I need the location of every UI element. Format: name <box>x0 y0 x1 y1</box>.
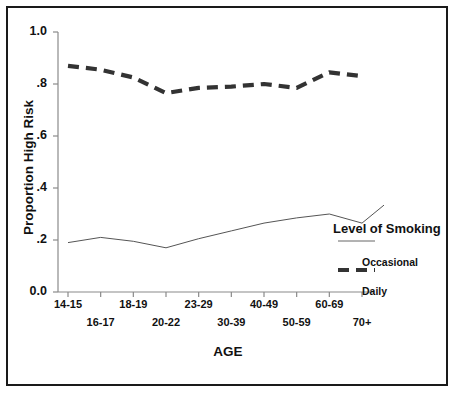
legend-label-occasional: Occasional <box>362 256 418 268</box>
y-tick-label: .8 <box>15 76 47 90</box>
y-axis-ticks <box>53 32 58 292</box>
y-tick-label: .2 <box>15 232 47 246</box>
y-tick-label: 0.0 <box>15 284 47 298</box>
y-tick-label: 1.0 <box>15 24 47 38</box>
x-tick-label: 20-22 <box>152 316 180 328</box>
x-tick-label: 18-19 <box>119 298 147 310</box>
y-tick-label: .6 <box>15 128 47 142</box>
x-tick-label: 14-15 <box>54 298 82 310</box>
legend-label-daily: Daily <box>362 285 387 297</box>
x-tick-label: 23-29 <box>185 298 213 310</box>
series-line-occasional <box>68 214 362 248</box>
x-tick-label: 16-17 <box>87 316 115 328</box>
x-tick-label: 30-39 <box>217 316 245 328</box>
x-tick-label: 50-59 <box>283 316 311 328</box>
x-tick-label: 60-69 <box>315 298 343 310</box>
y-tick-label: .4 <box>15 180 47 194</box>
legend-title: Level of Smoking <box>333 221 441 236</box>
chart-plot-area <box>0 0 456 394</box>
x-tick-label: 70+ <box>353 316 372 328</box>
y-axis-title: Proportion High Risk <box>21 78 36 258</box>
x-axis-title: AGE <box>0 344 456 359</box>
chart-figure: Proportion High Risk 1.0.8.6.4.20.0 14-1… <box>0 0 456 394</box>
x-tick-label: 40-49 <box>250 298 278 310</box>
series-line-daily <box>68 66 362 93</box>
x-axis-ticks <box>68 292 362 297</box>
